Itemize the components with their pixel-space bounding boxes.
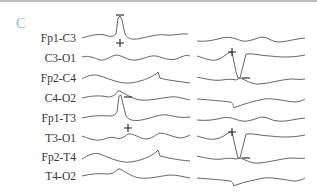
trace-left-c4-o2: [82, 91, 190, 100]
trace-left-c3-o1: [82, 55, 190, 60]
trace-left-fp1-c3: [82, 16, 188, 39]
trace-right-fp1-t3: [197, 117, 305, 121]
trace-left-fp2-c4: [82, 72, 190, 83]
trace-right-c4-o2: [197, 99, 305, 108]
trace-right-fp1-c3: [197, 37, 305, 42]
trace-right-fp2-t4: [197, 156, 305, 163]
trace-left-t3-o1: [82, 133, 190, 140]
plus-mark-icon-4: [228, 128, 236, 136]
plus-mark-icon-2: [124, 124, 132, 132]
trace-left-fp2-t4: [82, 150, 190, 162]
eeg-traces: [0, 0, 317, 193]
plus-mark-icon: [116, 39, 124, 47]
trace-right-t4-o2: [197, 178, 305, 186]
trace-right-t3-o1: [197, 132, 305, 158]
trace-right-fp2-c4: [197, 77, 305, 84]
plus-mark-icon-3: [228, 48, 236, 56]
trace-left-t4-o2: [82, 169, 190, 178]
trace-right-c3-o1: [197, 52, 305, 78]
